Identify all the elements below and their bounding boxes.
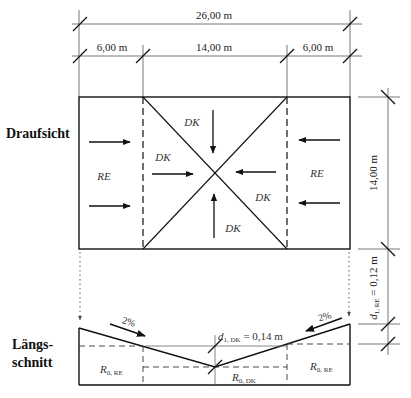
projection-lines [80,252,349,320]
dim-left-strip: 6,00 m [97,41,128,53]
dim-right-strip: 6,00 m [303,41,334,53]
dim-d1-re: d1, RE = 0,12 m [367,256,381,320]
zone-dk-bottom: DK [224,222,241,234]
zone-dk-top: DK [183,116,200,128]
zone-dk-left: DK [154,151,171,163]
slope-left-label: 2% [121,315,137,329]
drainage-diagram: 26,00 m 6,00 m 14,00 m 6,00 m 14,00 m d1… [0,0,411,398]
r0-re-left-label: R0, RE [99,363,123,377]
d1-dk-label: d1, DK = 0,14 m [218,330,283,344]
dim-total-width: 26,00 m [196,9,233,21]
r0-dk-label: R0, DK [231,371,256,385]
zone-re-left: RE [96,170,111,182]
zone-dk-right: DK [254,191,271,203]
r0-re-right-label: R0, RE [309,360,333,374]
dim-depth: 14,00 m [367,155,379,192]
top-dimension-chain [72,10,362,97]
zone-re-right: RE [309,167,324,179]
slope-right-label: 2% [317,309,333,323]
dim-middle: 14,00 m [196,41,233,53]
